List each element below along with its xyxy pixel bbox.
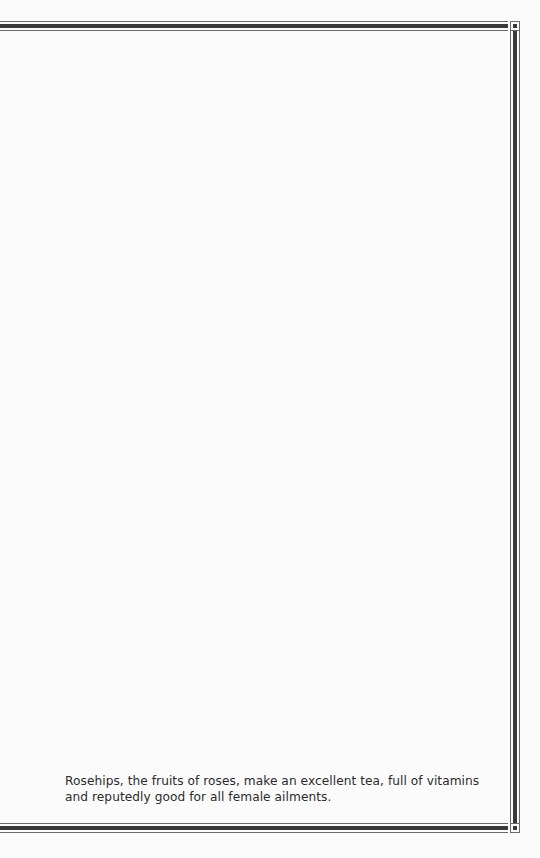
corner-square-icon bbox=[513, 24, 517, 28]
bottom-border-thin-line-inner bbox=[0, 832, 508, 833]
right-border-thin-line-inner bbox=[519, 31, 520, 823]
top-border-rule bbox=[0, 21, 508, 31]
top-border-thick-line bbox=[0, 24, 508, 28]
right-border-thick-line bbox=[513, 31, 517, 823]
corner-square-icon bbox=[513, 826, 517, 830]
bottom-right-corner-ornament bbox=[510, 823, 520, 833]
right-border-rule bbox=[510, 31, 520, 823]
bottom-border-thick-line bbox=[0, 826, 508, 830]
top-right-corner-ornament bbox=[510, 21, 520, 31]
page-caption: Rosehips, the fruits of roses, make an e… bbox=[65, 773, 505, 805]
top-border-thin-line-inner bbox=[0, 30, 508, 31]
bottom-border-thin-line-outer bbox=[0, 823, 508, 824]
right-border-thin-line-outer bbox=[510, 31, 511, 823]
top-border-thin-line-outer bbox=[0, 21, 508, 22]
bottom-border-rule bbox=[0, 823, 508, 833]
